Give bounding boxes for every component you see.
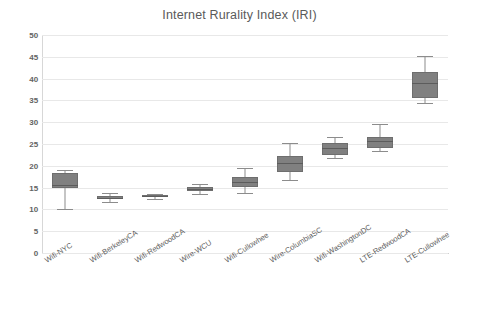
lower-whisker-cap [237, 193, 253, 194]
chart-title: Internet Rurality Index (IRI) [0, 8, 479, 22]
box-plot-item [313, 35, 358, 253]
y-axis-tick-label: 30 [8, 118, 38, 127]
y-axis-tick-labels: 50454035302520151050 [6, 35, 38, 253]
box-plot-item [358, 35, 403, 253]
y-axis-tick-label: 15 [8, 183, 38, 192]
y-axis-tick-label: 40 [8, 74, 38, 83]
upper-whisker [425, 56, 426, 72]
median-line [97, 198, 123, 199]
upper-whisker-cap [192, 184, 208, 185]
upper-whisker [380, 124, 381, 137]
y-axis-tick-label: 10 [8, 205, 38, 214]
lower-whisker-cap [417, 103, 433, 104]
y-axis-tick-label: 45 [8, 52, 38, 61]
lower-whisker [64, 188, 65, 209]
lower-whisker [290, 172, 291, 180]
upper-whisker-cap [282, 143, 298, 144]
x-axis-tick-labels: Wifi-NYCWifi-BerkeleyCAWifi-RedwoodCAWir… [0, 253, 479, 317]
median-line [412, 83, 438, 84]
y-axis-tick-label: 35 [8, 96, 38, 105]
median-line [277, 163, 303, 164]
box-plot-item [268, 35, 313, 253]
upper-whisker [290, 143, 291, 156]
plot-area [42, 35, 448, 253]
median-line [232, 182, 258, 183]
lower-whisker-cap [147, 199, 163, 200]
box-plot-item [42, 35, 87, 253]
box-plot-item [403, 35, 448, 253]
lower-whisker-cap [282, 180, 298, 181]
box-plot-item [222, 35, 267, 253]
lower-whisker-cap [327, 158, 343, 159]
box-plot-item [177, 35, 222, 253]
y-axis-tick-label: 50 [8, 31, 38, 40]
box-rect [367, 137, 393, 148]
upper-whisker-cap [102, 193, 118, 194]
upper-whisker-cap [57, 170, 73, 171]
chart-screenshot: Internet Rurality Index (IRI) 5045403530… [0, 0, 479, 317]
median-line [142, 196, 168, 197]
y-axis-tick-label: 20 [8, 161, 38, 170]
median-line [187, 189, 213, 190]
lower-whisker-cap [372, 151, 388, 152]
box-rect [412, 72, 438, 98]
lower-whisker-cap [102, 202, 118, 203]
median-line [367, 141, 393, 142]
box-plot-item [132, 35, 177, 253]
upper-whisker-cap [237, 168, 253, 169]
upper-whisker [244, 168, 245, 177]
box-plot-item [87, 35, 132, 253]
lower-whisker-cap [57, 209, 73, 210]
median-line [52, 185, 78, 186]
y-axis-tick-label: 5 [8, 227, 38, 236]
lower-whisker-cap [192, 194, 208, 195]
median-line [322, 148, 348, 149]
upper-whisker-cap [327, 137, 343, 138]
upper-whisker-cap [372, 124, 388, 125]
y-axis-tick-label: 25 [8, 140, 38, 149]
upper-whisker-cap [417, 56, 433, 57]
